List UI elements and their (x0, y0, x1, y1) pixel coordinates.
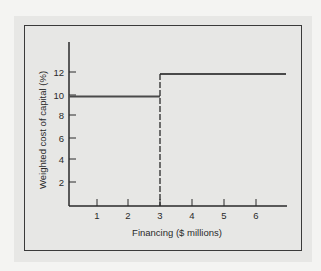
x-tick-label: 5 (221, 210, 226, 221)
y-tick-label: 6 (59, 133, 64, 144)
x-tick-label: 2 (125, 210, 130, 221)
y-tick-label: 10 (53, 90, 64, 101)
x-tick-label: 6 (253, 210, 258, 221)
y-axis-label: Weighted cost of capital (%) (37, 71, 48, 189)
y-tick-label: 8 (59, 110, 64, 121)
x-axis-label: Financing ($ millions) (132, 227, 222, 238)
x-ticks (97, 199, 256, 206)
y-tick-labels: 2 4 6 8 10 12 (53, 67, 64, 188)
x-tick-label: 1 (94, 210, 99, 221)
y-tick-label: 2 (59, 177, 64, 188)
y-ticks (69, 72, 76, 182)
y-tick-label: 4 (59, 154, 64, 165)
x-tick-label: 3 (157, 210, 162, 221)
y-tick-label: 12 (53, 67, 64, 78)
x-tick-label: 4 (189, 210, 194, 221)
chart-svg: 2 4 6 8 10 12 1 2 3 4 5 6 Financing ($ m… (0, 0, 321, 271)
x-tick-labels: 1 2 3 4 5 6 (94, 210, 258, 221)
